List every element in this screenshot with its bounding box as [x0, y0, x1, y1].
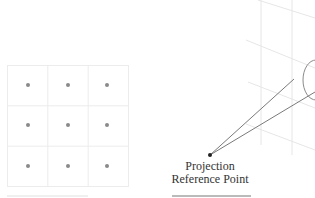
- view-plane-grid: [246, 0, 315, 155]
- projection-reference-point-dot: [208, 153, 212, 157]
- pixel-center-dots: [26, 83, 109, 168]
- prp-label-line2: Reference Point: [150, 173, 270, 185]
- prp-label-line1: Projection: [150, 160, 270, 172]
